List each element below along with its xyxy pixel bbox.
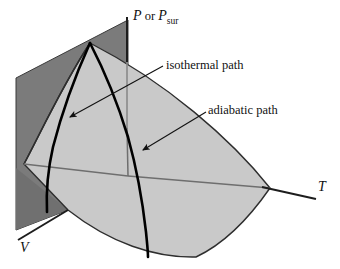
pressure-subscript: sur: [167, 16, 179, 26]
temperature-axis-label: T: [318, 180, 326, 194]
thermodynamic-surface-diagram: [0, 0, 340, 269]
pressure-symbol: P: [133, 8, 142, 23]
pressure-symbol-surroundings: P: [158, 8, 167, 23]
pressure-conjunction: or: [142, 9, 159, 23]
isothermal-path-label: isothermal path: [166, 59, 243, 72]
adiabatic-path-label: adiabatic path: [208, 104, 278, 117]
volume-axis-label: V: [20, 241, 29, 255]
temperature-axis-line: [262, 187, 316, 199]
pressure-axis-label: P or Psur: [133, 9, 178, 26]
